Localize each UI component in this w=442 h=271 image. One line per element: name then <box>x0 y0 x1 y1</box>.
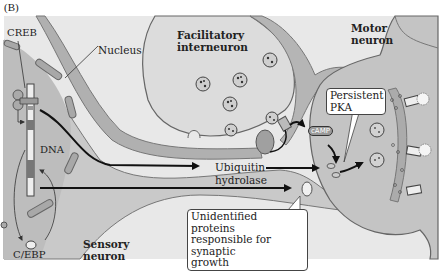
sensory-neuron-label-1: Sensory <box>83 238 129 250</box>
unidentified-proteins-callout: Unidentified proteins responsible for sy… <box>187 209 308 271</box>
ubiquitin-hydrolase-label-1: Ubiquitin <box>215 161 265 173</box>
cebp-protein <box>26 241 36 249</box>
organelle <box>1 222 7 228</box>
growth-protein <box>302 182 312 196</box>
receptor <box>256 130 274 154</box>
unidentified-line-3: growth <box>191 257 304 269</box>
nucleus-label: Nucleus <box>98 44 142 56</box>
creb-label: CREB <box>7 27 37 39</box>
ubiquitin-hydrolase-label-2: hydrolase <box>215 174 267 186</box>
camp-label: cAMP <box>308 126 333 136</box>
sensory-neuron-label-2: neuron <box>83 250 125 262</box>
facilitatory-interneuron-label-2: interneuron <box>177 41 248 53</box>
persistent-pka-line-2: PKA <box>330 102 382 114</box>
persistent-pka-line-1: Persistent <box>330 90 382 102</box>
motor-neuron-label-2: neuron <box>351 34 393 46</box>
cebp-label: C/EBP <box>13 249 45 261</box>
motor-neuron-label-1: Motor <box>351 22 387 34</box>
persistent-pka-callout: Persistent PKA <box>326 88 386 115</box>
unidentified-line-1: Unidentified proteins <box>191 211 304 234</box>
unidentified-line-2: responsible for synaptic <box>191 234 304 257</box>
dna-label: DNA <box>40 144 64 156</box>
facilitatory-interneuron-label-1: Facilitatory <box>177 29 244 41</box>
panel-label: (B) <box>4 1 19 13</box>
